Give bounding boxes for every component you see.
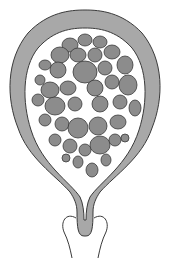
uterus-diagram [0,0,169,258]
